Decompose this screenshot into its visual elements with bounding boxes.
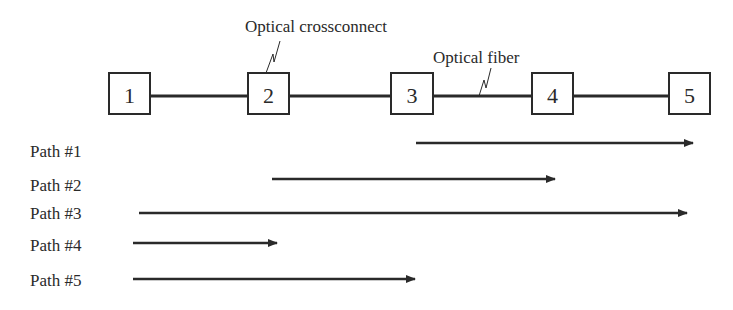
- path-2-label: Path #2: [30, 176, 81, 195]
- fiber-callout-label: Optical fiber: [433, 48, 520, 67]
- node-5-label: 5: [684, 83, 695, 108]
- node-2: 2: [248, 73, 289, 114]
- crossconnect-callout-label: Optical crossconnect: [245, 17, 387, 36]
- path-1-label: Path #1: [30, 142, 81, 161]
- path-5-label: Path #5: [30, 271, 81, 290]
- node-3-label: 3: [407, 83, 418, 108]
- node-1-label: 1: [124, 83, 135, 108]
- crossconnect-callout-squiggle: [266, 41, 280, 73]
- node-4-label: 4: [547, 83, 558, 108]
- fiber-callout-squiggle: [479, 68, 491, 96]
- path-4-label: Path #4: [30, 236, 82, 255]
- path-3-label: Path #3: [30, 204, 81, 223]
- node-1: 1: [109, 73, 150, 114]
- node-2-label: 2: [263, 83, 274, 108]
- optical-network-diagram: 1 2 3 4 5 Optical crossconnect Optical f…: [0, 0, 733, 310]
- node-5: 5: [669, 73, 710, 114]
- node-3: 3: [391, 73, 433, 114]
- node-4: 4: [532, 73, 573, 114]
